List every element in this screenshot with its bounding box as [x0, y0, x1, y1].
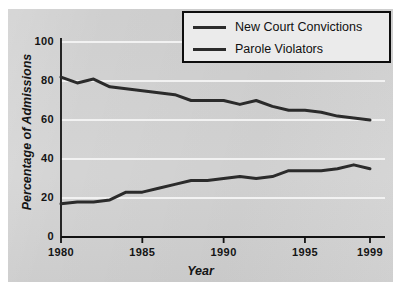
series-lines-group [61, 77, 370, 204]
legend-line-swatch-icon [193, 48, 226, 51]
legend-label: New Court Convictions [235, 20, 362, 34]
legend-label: Parole Violators [235, 42, 323, 56]
x-tick-label: 1999 [340, 246, 400, 258]
x-tick-label: 1980 [31, 246, 91, 258]
x-axis-title: Year [0, 264, 401, 278]
y-tick-label: 0 [9, 230, 54, 242]
axes-group [61, 38, 385, 237]
x-tick-label: 1985 [112, 246, 172, 258]
legend-line-swatch-icon [193, 26, 226, 29]
legend-item-parole-violators: Parole Violators [184, 38, 389, 60]
x-tick-label: 1990 [194, 246, 254, 258]
y-axis-title: Percentage of Admissions [20, 42, 34, 222]
x-tick-label: 1995 [275, 246, 335, 258]
legend-item-new-court-convictions: New Court Convictions [184, 16, 389, 38]
chart-figure: 020406080100 19801985199019951999 Percen… [0, 0, 401, 293]
chart-legend: New Court Convictions Parole Violators [182, 11, 391, 63]
gridlines-group [61, 42, 385, 198]
